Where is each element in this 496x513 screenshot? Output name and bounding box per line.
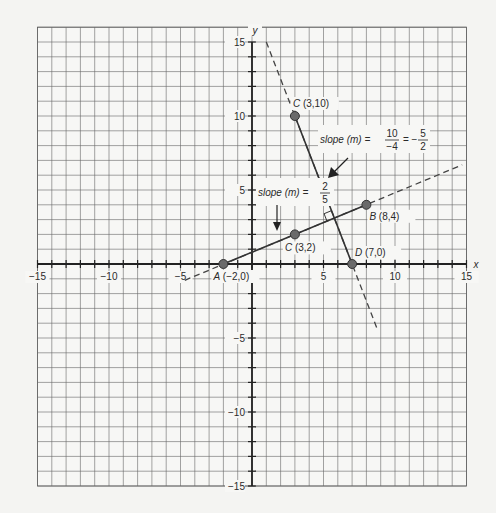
y-tick-label: 10 — [234, 111, 246, 122]
point-b — [362, 200, 371, 209]
point-label: C (3,10) — [293, 98, 329, 109]
y-tick-label: −15 — [228, 481, 245, 492]
point-label: B (8,4) — [369, 211, 399, 222]
point-label: A (−2,0) — [212, 271, 249, 282]
fraction-denominator: 5 — [322, 194, 328, 205]
fraction-numerator: 5 — [420, 128, 426, 139]
x-axis-label: x — [473, 259, 480, 270]
x-tick-label: 15 — [461, 271, 473, 282]
point-c — [290, 112, 299, 121]
fraction-denominator: −4 — [386, 141, 398, 152]
y-tick-label: −10 — [228, 407, 245, 418]
point-c — [290, 230, 299, 239]
fraction-numerator: 10 — [386, 128, 398, 139]
coordinate-plane: −15−10−551015−15−10−551015yxA (−2,0)C (3… — [0, 0, 496, 513]
x-tick-label: 5 — [321, 271, 327, 282]
slope-annotation-cd: slope (m) = — [320, 134, 370, 145]
point-d — [348, 260, 357, 269]
y-tick-label: 5 — [239, 185, 245, 196]
point-label: C (3,2) — [285, 242, 316, 253]
x-tick-label: −15 — [29, 271, 46, 282]
x-tick-label: −10 — [101, 271, 118, 282]
y-tick-label: −5 — [234, 333, 246, 344]
point-label: D (7,0) — [355, 247, 386, 258]
y-tick-label: 15 — [234, 37, 246, 48]
fraction-denominator: 2 — [420, 141, 426, 152]
x-tick-label: 10 — [389, 271, 401, 282]
point-a — [219, 260, 228, 269]
y-axis-label: y — [252, 25, 259, 36]
fraction-numerator: 2 — [322, 181, 328, 192]
slope-annotation-ab: slope (m) = — [258, 187, 308, 198]
equals-minus: = − — [403, 134, 418, 145]
